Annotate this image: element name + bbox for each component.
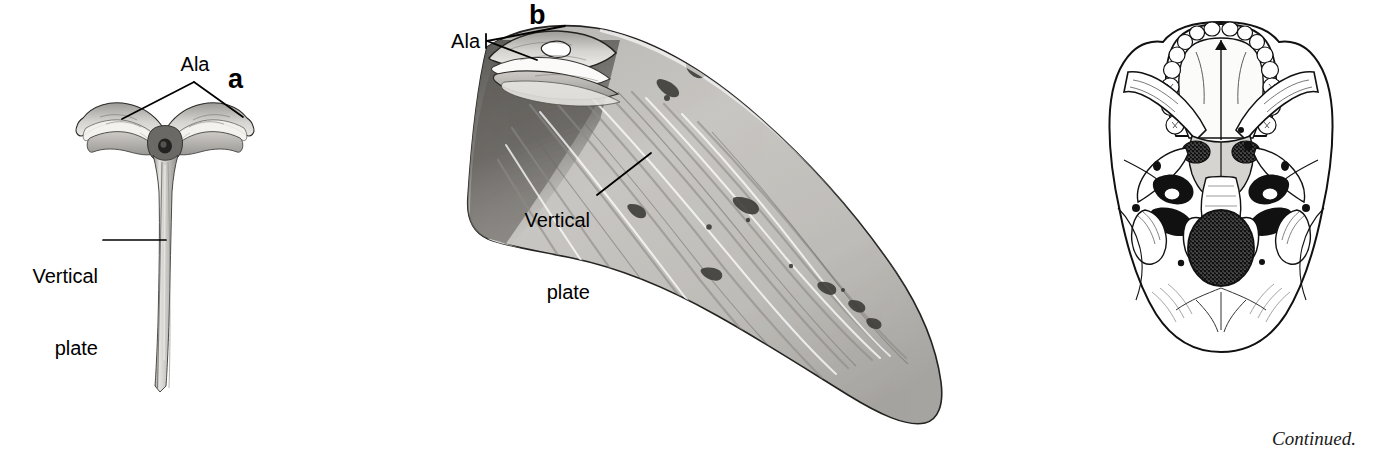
label-vertical-plate-panel-b: Vertical plate bbox=[490, 160, 590, 352]
label-vertical-plate-panel-b-line1: Vertical bbox=[490, 208, 590, 232]
continued-note: Continued. bbox=[1272, 428, 1356, 450]
figure-page: Ala a Vertical plate Ala b Vertical plat… bbox=[0, 0, 1384, 461]
label-ala-panel-b: Ala bbox=[418, 29, 480, 53]
panel-letter-b: b bbox=[529, 2, 546, 29]
panel-a-vomer-illustration bbox=[76, 103, 254, 392]
skull-base-illustration bbox=[1109, 22, 1332, 352]
panel-a-leaders bbox=[122, 82, 243, 119]
label-vertical-plate-panel-a-line1: Vertical bbox=[0, 264, 98, 288]
panel-b-vertical-plate-leader bbox=[597, 153, 651, 195]
panel-letter-a: a bbox=[228, 66, 243, 93]
label-vertical-plate-panel-b-line2: plate bbox=[490, 280, 590, 304]
panel-b-leaders bbox=[486, 26, 565, 60]
label-vertical-plate-panel-a-line2: plate bbox=[0, 336, 98, 360]
label-vertical-plate-panel-a: Vertical plate bbox=[0, 216, 98, 408]
label-ala-panel-a: Ala bbox=[160, 52, 230, 76]
